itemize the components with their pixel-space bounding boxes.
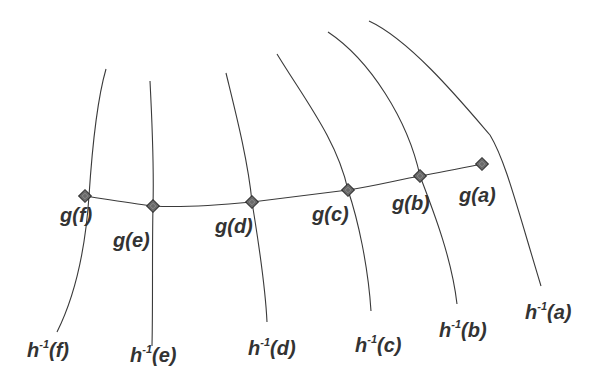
label-g-b: g(b): [392, 193, 430, 213]
label-g-d: g(d): [215, 216, 253, 236]
label-g-a: g(a): [459, 185, 496, 205]
curve-h-inverse-f: [57, 69, 106, 332]
diamond-marker-icon: [147, 200, 160, 213]
label-h-inverse-f: h-1(f): [27, 340, 69, 360]
g-point-c: [342, 184, 355, 197]
diamond-marker-icon: [414, 170, 427, 183]
curve-h-inverse-a: [369, 21, 541, 286]
label-g-c: g(c): [312, 204, 349, 224]
curve-h-inverse-d: [226, 73, 267, 322]
g-point-d: [246, 196, 259, 209]
diamond-marker-icon: [342, 184, 355, 197]
label-g-e: g(e): [113, 230, 150, 250]
g-point-a: [476, 158, 489, 171]
label-h-inverse-a: h-1(a): [525, 302, 571, 322]
label-g-f: g(f): [60, 205, 92, 225]
curve-h-inverse-e: [150, 81, 153, 346]
label-h-inverse-c: h-1(c): [355, 335, 401, 355]
curve-h-inverse-c: [277, 54, 371, 311]
label-h-inverse-b: h-1(b): [439, 320, 487, 340]
diamond-marker-icon: [476, 158, 489, 171]
label-h-inverse-d: h-1(d): [248, 338, 296, 358]
diagram-canvas: [0, 0, 611, 388]
g-point-b: [414, 170, 427, 183]
g-point-e: [147, 200, 160, 213]
label-h-inverse-e: h-1(e): [130, 345, 176, 365]
diamond-marker-icon: [246, 196, 259, 209]
curve-h-inverse-b: [328, 32, 457, 304]
